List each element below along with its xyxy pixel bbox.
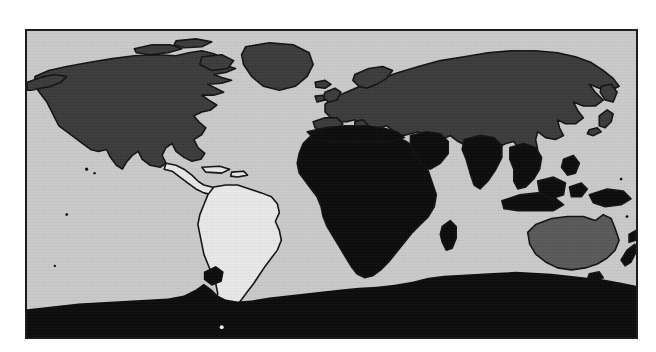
island-speck-1 — [85, 168, 88, 171]
island-speck-5 — [443, 229, 446, 232]
island-speck-4 — [54, 265, 56, 267]
map-frame — [25, 29, 638, 339]
island-speck-2 — [93, 172, 95, 174]
island-speck-7 — [620, 178, 623, 181]
region-ireland — [315, 95, 325, 102]
antarctic-speck-2 — [453, 298, 455, 300]
world-map-svg — [27, 31, 636, 337]
world-map-figure — [0, 0, 656, 352]
island-speck-8 — [626, 215, 629, 218]
island-speck-3 — [65, 213, 68, 216]
region-cuba — [202, 166, 230, 173]
island-speck-6 — [415, 192, 418, 195]
region-hispaniola — [231, 171, 248, 177]
antarctic-speck-1 — [220, 325, 224, 329]
